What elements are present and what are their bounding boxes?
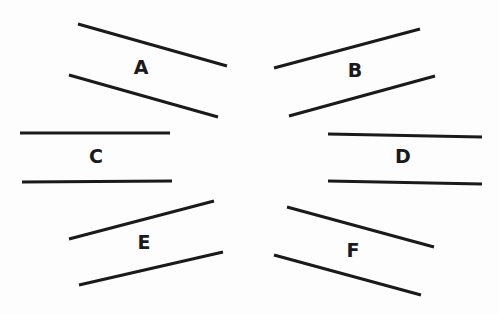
line-pair-d: D (328, 134, 482, 184)
line-d-top (328, 134, 482, 137)
line-pair-f: F (274, 207, 434, 295)
line-pair-c: C (20, 133, 172, 182)
line-e-bottom (79, 252, 223, 285)
line-a-top (78, 24, 227, 66)
parallel-lines-illusion-diagram: A B C D E F (0, 0, 499, 314)
line-pair-e: E (69, 201, 223, 285)
line-d-bottom (328, 181, 482, 184)
line-pair-b: B (274, 29, 435, 116)
label-c: C (89, 145, 103, 167)
label-b: B (348, 59, 362, 81)
line-c-bottom (22, 181, 172, 182)
label-e: E (138, 231, 151, 253)
diagram-svg: A B C D E F (0, 0, 499, 314)
line-f-bottom (274, 255, 421, 295)
label-a: A (134, 56, 149, 78)
label-d: D (395, 145, 411, 167)
line-b-bottom (289, 76, 435, 116)
line-f-top (287, 207, 434, 247)
line-pair-a: A (69, 24, 227, 117)
label-f: F (347, 239, 360, 261)
line-a-bottom (69, 75, 218, 117)
